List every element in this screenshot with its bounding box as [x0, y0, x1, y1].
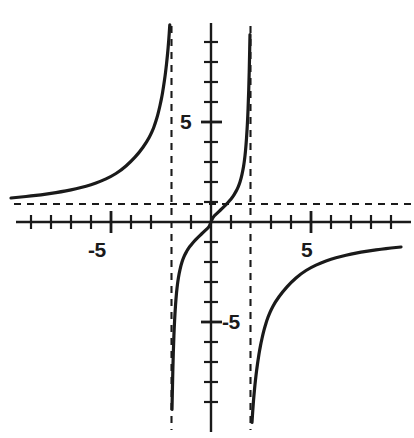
y-axis-tick-label-neg5: -5 [222, 310, 240, 334]
curve-branch [11, 25, 170, 198]
curve-branch [252, 247, 401, 422]
x-axis-tick-label-neg5: -5 [88, 238, 106, 262]
y-axis-tick-label-pos5: 5 [180, 110, 191, 134]
plot-canvas [0, 0, 414, 438]
x-axis-tick-label-pos5: 5 [301, 238, 312, 262]
function-graph-figure: -5 5 5 -5 [0, 0, 414, 438]
